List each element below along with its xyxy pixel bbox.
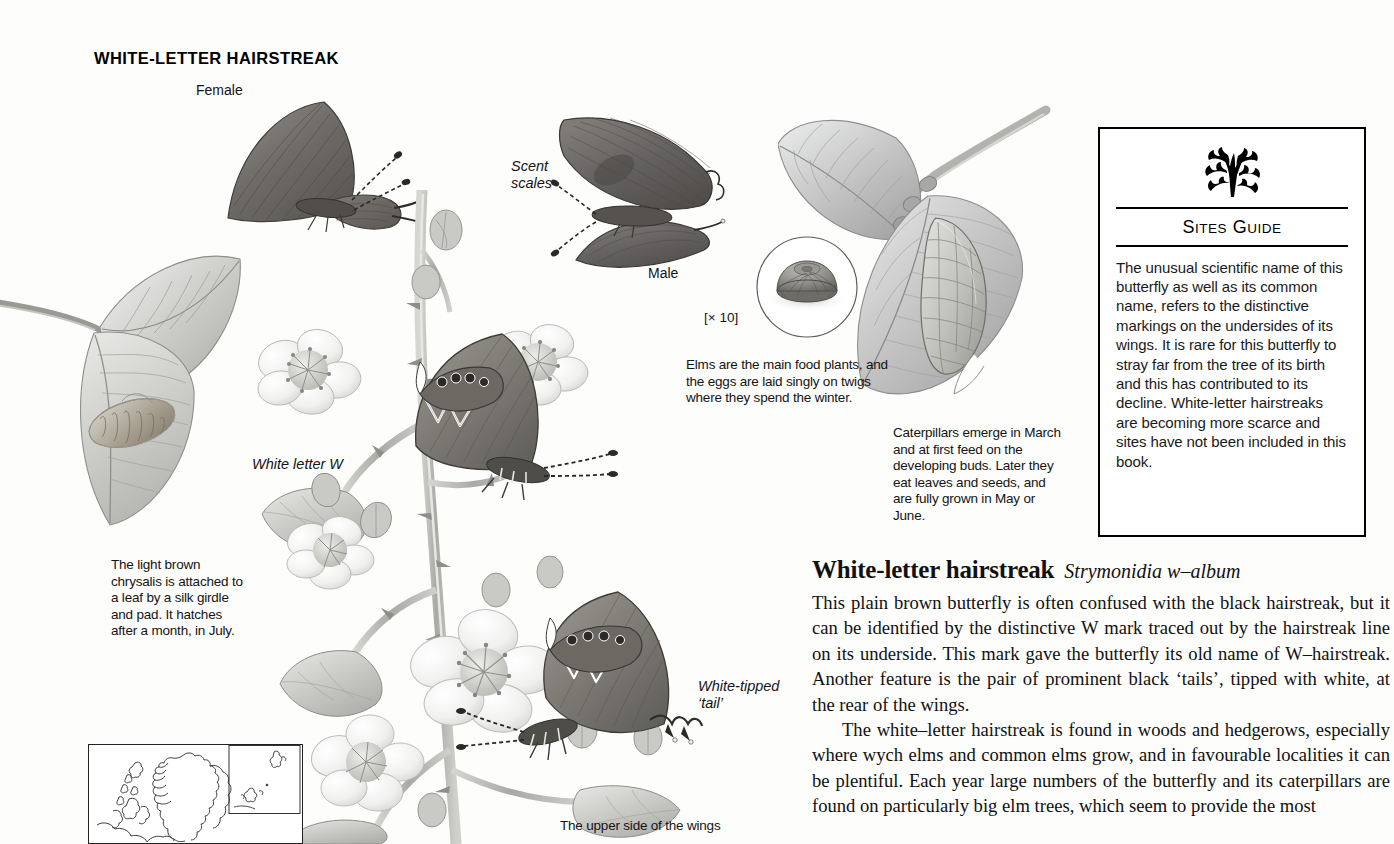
sites-guide-title-text: S bbox=[1183, 217, 1196, 237]
sites-guide-box: SITES GUIDE The unusual scientific name … bbox=[1098, 127, 1366, 537]
label-male: Male bbox=[648, 265, 678, 281]
label-white-tipped-tail: White-tipped ‘tail’ bbox=[698, 678, 779, 712]
sites-guide-divider-top bbox=[1116, 207, 1348, 209]
label-magnification: [× 10] bbox=[704, 310, 738, 325]
chrysalis-on-leaf-illustration bbox=[0, 215, 272, 555]
label-upper-side-of-wings: The upper side of the wings bbox=[560, 818, 720, 835]
male-butterfly-illustration bbox=[540, 110, 740, 290]
article-paragraph-2: The white–letter hairstreak is found in … bbox=[812, 717, 1390, 819]
sites-guide-divider-bottom bbox=[1116, 245, 1348, 247]
book-page: WHITE-LETTER HAIRSTREAK bbox=[0, 0, 1394, 844]
sites-guide-title: SITES GUIDE bbox=[1116, 211, 1348, 244]
species-scientific-name: Strymonidia w–album bbox=[1054, 560, 1240, 582]
label-female: Female bbox=[196, 82, 243, 98]
bramble-with-butterflies-illustration bbox=[250, 190, 780, 844]
sites-guide-body: The unusual scientific name of this butt… bbox=[1116, 248, 1348, 471]
species-heading: White-letter hairstreakStrymonidia w–alb… bbox=[812, 556, 1384, 584]
distribution-map bbox=[88, 744, 303, 844]
page-title: WHITE-LETTER HAIRSTREAK bbox=[94, 49, 339, 68]
label-white-letter-w: White letter W bbox=[252, 456, 343, 473]
caption-chrysalis: The light brown chrysalis is attached to… bbox=[111, 557, 251, 640]
label-scent-scales: Scent scales bbox=[511, 158, 552, 192]
egg-magnified-illustration bbox=[752, 235, 862, 340]
caption-eggs: Elms are the main food plants, and the e… bbox=[686, 357, 891, 407]
caption-caterpillars: Caterpillars emerge in March and at firs… bbox=[893, 425, 1063, 524]
female-butterfly-illustration bbox=[200, 96, 430, 246]
article-paragraph-1: This plain brown butterfly is often conf… bbox=[812, 590, 1390, 717]
oak-leaf-icon bbox=[1116, 143, 1348, 205]
article-body: This plain brown butterfly is often conf… bbox=[812, 590, 1390, 844]
species-common-name: White-letter hairstreak bbox=[812, 556, 1054, 583]
